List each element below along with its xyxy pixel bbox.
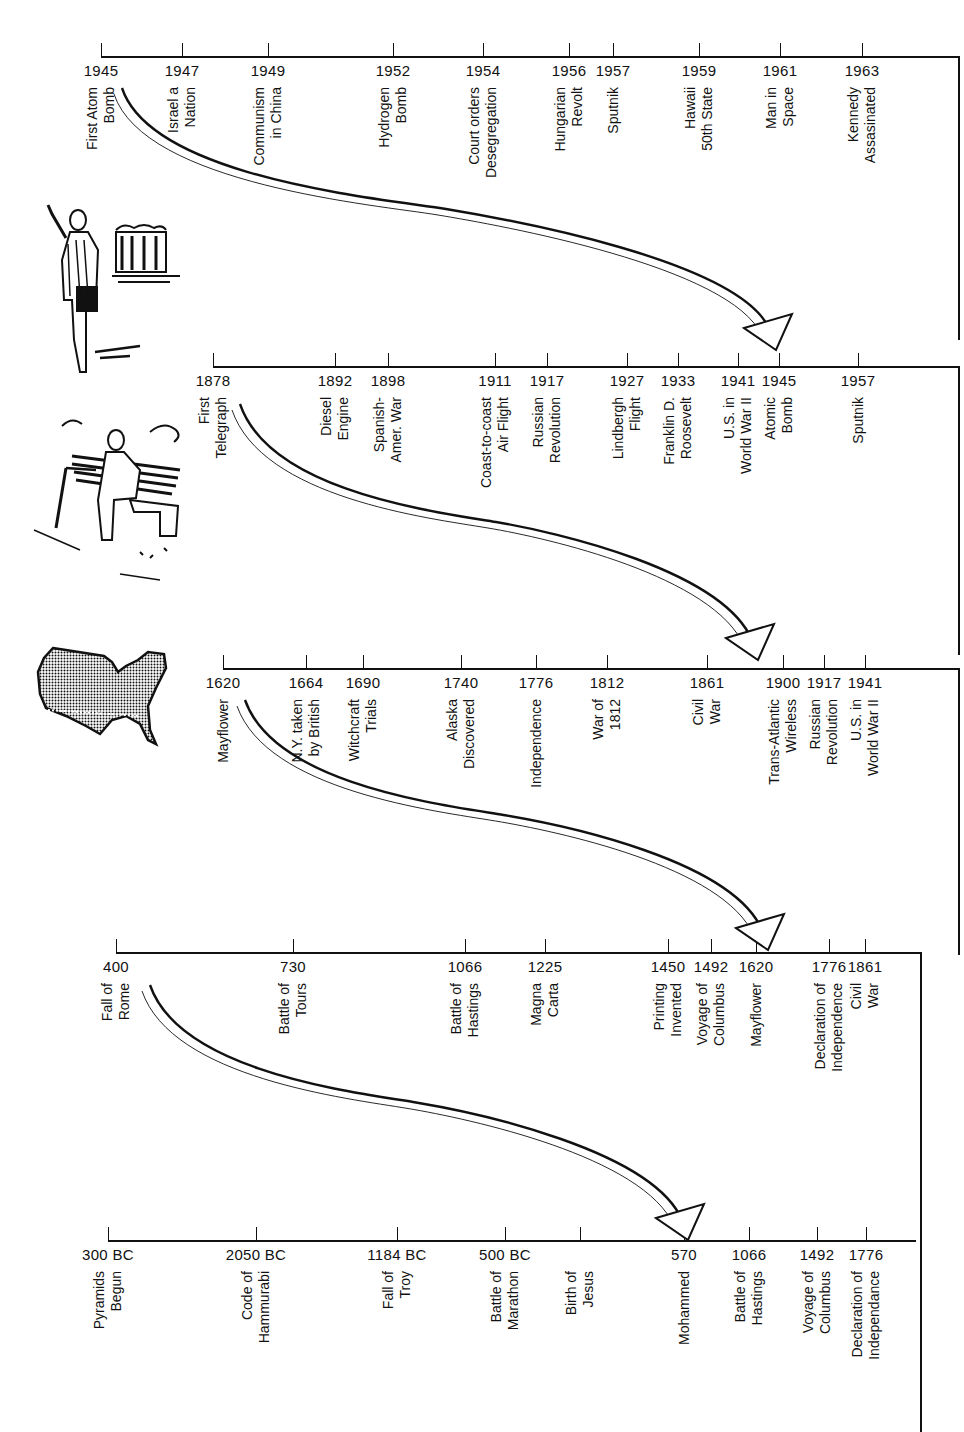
zoom-arrow-1 [114, 88, 792, 350]
zoom-arrow-3 [237, 700, 784, 950]
man-with-book-illustration [48, 205, 180, 372]
zoom-arrow-4 [142, 985, 704, 1240]
zoom-arrow-2 [232, 404, 774, 660]
old-man-on-bench-illustration [34, 420, 180, 580]
usa-map-illustration [38, 648, 166, 744]
